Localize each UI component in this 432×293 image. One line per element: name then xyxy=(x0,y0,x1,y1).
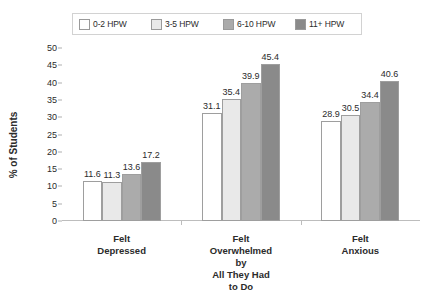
bar-value-label: 45.4 xyxy=(261,52,279,62)
y-axis-title: % of Students xyxy=(8,90,19,200)
x-axis-tick-mark xyxy=(301,221,302,225)
y-axis-tick-label: 40 xyxy=(47,78,57,88)
legend-label: 0-2 HPW xyxy=(93,19,127,29)
y-axis-tick-mark xyxy=(58,221,62,222)
bar-column[interactable]: 30.5 xyxy=(341,48,361,221)
bar-column[interactable]: 34.4 xyxy=(360,48,380,221)
legend-swatch-icon xyxy=(79,19,90,30)
y-axis-tick-mark xyxy=(58,65,62,66)
bar-value-label: 17.2 xyxy=(142,150,160,160)
legend-item: 11+ HPW xyxy=(289,19,361,30)
bar-column[interactable]: 35.4 xyxy=(222,48,242,221)
y-axis-tick-label: 10 xyxy=(47,181,57,191)
bar-value-label: 34.4 xyxy=(361,90,379,100)
legend-item: 3-5 HPW xyxy=(145,19,217,30)
bar-value-label: 39.9 xyxy=(242,71,260,81)
bar-value-label: 13.6 xyxy=(123,162,141,172)
legend-label: 11+ HPW xyxy=(309,19,344,29)
bar-column[interactable]: 13.6 xyxy=(122,48,142,221)
legend-label: 6-10 HPW xyxy=(237,19,275,29)
bar[interactable] xyxy=(122,174,142,221)
bar[interactable] xyxy=(83,181,103,221)
bar-group: 31.135.439.945.4Felt Overwhelmed by All … xyxy=(202,48,280,221)
bar-column[interactable]: 39.9 xyxy=(241,48,261,221)
y-axis-tick-label: 50 xyxy=(47,43,57,53)
bar-column[interactable]: 45.4 xyxy=(261,48,281,221)
legend-swatch-icon xyxy=(223,19,234,30)
bar[interactable] xyxy=(222,99,242,221)
bar-column[interactable]: 11.3 xyxy=(102,48,122,221)
bar-value-label: 11.3 xyxy=(103,170,120,180)
y-axis-tick-label: 30 xyxy=(47,112,57,122)
plot-area: 0510152025303540455011.611.313.617.2Felt… xyxy=(62,48,420,221)
x-axis-tick-mark xyxy=(181,221,182,225)
y-axis-tick-label: 35 xyxy=(47,95,57,105)
bar-group: 11.611.313.617.2Felt Depressed xyxy=(83,48,161,221)
bar-column[interactable]: 40.6 xyxy=(380,48,400,221)
y-axis-tick-label: 0 xyxy=(52,216,57,226)
y-axis-tick-mark xyxy=(58,82,62,83)
x-axis-category-label: Felt Anxious xyxy=(341,233,380,257)
bar-group: 28.930.534.440.6Felt Anxious xyxy=(321,48,399,221)
y-axis-tick-mark xyxy=(58,186,62,187)
bar-column[interactable]: 17.2 xyxy=(141,48,161,221)
y-axis-tick-mark xyxy=(58,117,62,118)
bar[interactable] xyxy=(341,115,361,221)
y-axis-tick-mark xyxy=(58,134,62,135)
y-axis-tick-mark xyxy=(58,151,62,152)
legend-swatch-icon xyxy=(295,19,306,30)
y-axis-tick-label: 20 xyxy=(47,147,57,157)
y-axis-tick-label: 25 xyxy=(47,130,57,140)
y-axis-tick-label: 5 xyxy=(52,199,57,209)
x-axis-category-label: Felt Depressed xyxy=(97,233,146,257)
bar[interactable] xyxy=(102,182,122,221)
bar[interactable] xyxy=(261,64,281,221)
bar[interactable] xyxy=(241,83,261,221)
y-axis-tick-mark xyxy=(58,169,62,170)
bar[interactable] xyxy=(321,121,341,221)
bar-column[interactable]: 11.6 xyxy=(83,48,103,221)
bar-column[interactable]: 31.1 xyxy=(202,48,222,221)
legend-swatch-icon xyxy=(151,19,162,30)
bar[interactable] xyxy=(380,81,400,221)
y-axis-tick-mark xyxy=(58,203,62,204)
legend-item: 0-2 HPW xyxy=(73,19,145,30)
y-axis-tick-mark xyxy=(58,99,62,100)
bar-value-label: 28.9 xyxy=(322,109,340,119)
legend-item: 6-10 HPW xyxy=(217,19,289,30)
bar-value-label: 35.4 xyxy=(222,87,240,97)
y-axis-tick-label: 15 xyxy=(47,164,57,174)
y-axis-tick-mark xyxy=(58,48,62,49)
bar-value-label: 30.5 xyxy=(342,103,360,113)
bar-value-label: 11.6 xyxy=(84,169,101,179)
chart-legend: 0-2 HPW 3-5 HPW 6-10 HPW 11+ HPW xyxy=(72,13,362,35)
bar-value-label: 40.6 xyxy=(381,69,399,79)
bar[interactable] xyxy=(360,102,380,221)
x-axis-category-label: Felt Overwhelmed by All They Had to Do xyxy=(210,233,272,293)
bar[interactable] xyxy=(141,162,161,222)
y-axis-tick-label: 45 xyxy=(47,60,57,70)
bar-column[interactable]: 28.9 xyxy=(321,48,341,221)
bar[interactable] xyxy=(202,113,222,221)
legend-label: 3-5 HPW xyxy=(165,19,199,29)
bar-value-label: 31.1 xyxy=(203,101,221,111)
